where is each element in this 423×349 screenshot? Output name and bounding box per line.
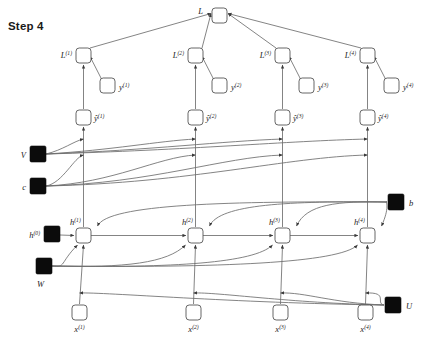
node-target-2 [212, 78, 227, 93]
label-target-1: y(1) [118, 82, 129, 92]
label-param-b: b [409, 198, 413, 208]
label-output-1: ŷ(1) [93, 113, 104, 123]
label-loss-total: L [197, 6, 203, 16]
label-target-2: y(2) [230, 82, 241, 92]
label-loss-step-1: L(1) [60, 50, 72, 60]
label-loss-step-3: L(3) [259, 50, 271, 60]
label-output-2: ŷ(2) [205, 113, 216, 123]
diagram-canvas: Step 4 LL(1)L(2)L(3)L(4)y(1)y(2)y(3)y(4)… [0, 0, 423, 349]
node-input-1 [72, 305, 87, 320]
label-param-W: W [37, 279, 45, 289]
label-param-U: U [406, 301, 413, 311]
label-output-4: ŷ(4) [377, 113, 388, 123]
label-hidden-4: h(4) [354, 217, 365, 227]
node-output-1 [76, 110, 91, 125]
label-input-1: x(1) [73, 324, 84, 334]
node-loss-step-3 [275, 48, 290, 63]
label-input-3: x(3) [274, 324, 285, 334]
node-loss-step-4 [360, 48, 375, 63]
node-param-V [30, 146, 46, 162]
node-param-U [385, 297, 401, 313]
node-param-W [36, 258, 52, 274]
label-target-3: y(3) [317, 82, 328, 92]
node-input-4 [358, 305, 373, 320]
label-hidden-2: h(2) [182, 217, 193, 227]
label-param-h0: h(0) [29, 230, 40, 240]
node-param-b [388, 194, 404, 210]
label-output-3: ŷ(3) [292, 113, 303, 123]
node-target-1 [100, 78, 115, 93]
edge-layer [46, 14, 387, 306]
node-output-3 [275, 110, 290, 125]
node-hidden-1 [76, 228, 91, 243]
node-loss-step-1 [76, 48, 91, 63]
label-param-c: c [22, 182, 26, 192]
node-hidden-3 [275, 228, 290, 243]
label-input-4: x(4) [359, 324, 370, 334]
computational-graph: LL(1)L(2)L(3)L(4)y(1)y(2)y(3)y(4)ŷ(1)ŷ(2… [0, 0, 423, 349]
node-output-2 [188, 110, 203, 125]
label-loss-step-2: L(2) [172, 50, 184, 60]
node-target-3 [299, 78, 314, 93]
label-input-2: x(2) [187, 324, 198, 334]
label-param-V: V [21, 150, 28, 160]
label-hidden-3: h(3) [269, 217, 280, 227]
node-input-2 [186, 305, 201, 320]
node-target-4 [384, 78, 399, 93]
node-input-3 [273, 305, 288, 320]
node-param-h0 [44, 226, 60, 242]
node-loss-step-2 [188, 48, 203, 63]
label-hidden-1: h(1) [70, 217, 81, 227]
label-target-4: y(4) [402, 82, 413, 92]
node-output-4 [360, 110, 375, 125]
node-loss-total [212, 8, 227, 23]
node-hidden-4 [360, 228, 375, 243]
node-param-c [30, 178, 46, 194]
label-loss-step-4: L(4) [344, 50, 356, 60]
node-hidden-2 [188, 228, 203, 243]
